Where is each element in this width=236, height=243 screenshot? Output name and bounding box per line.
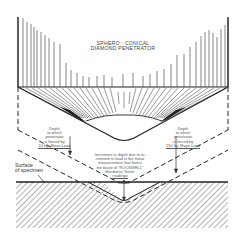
cone-shadow-right [160,107,186,122]
specimen-body [16,182,228,228]
rockwell-diagram [0,0,236,243]
increment-note-line-6: readings [112,173,127,179]
increment-note: Increment in depth due to in- crement in… [82,153,158,178]
minor-load-note: Depth to which penetrator is forced by 1… [27,127,82,148]
major-note-line-5: 150 kg. Major Load [166,143,200,149]
surface-label: Surface of specimen [15,163,43,174]
minor-note-line-5: 10 kg. Minor Load [38,143,70,149]
cone-shading [20,88,226,118]
cone-shadow-left [60,107,86,122]
surface-label-line-2: of specimen [15,168,43,173]
cone-sphere-arc [86,115,162,121]
penetrator-title: SPHERO - CONICAL DIAMOND PENETRATOR [78,41,168,52]
title-line-2: DIAMOND PENETRATOR [78,46,168,51]
major-load-note: Depth to which penetrator is forced by 1… [152,127,214,148]
penetrator-shading [18,17,228,87]
